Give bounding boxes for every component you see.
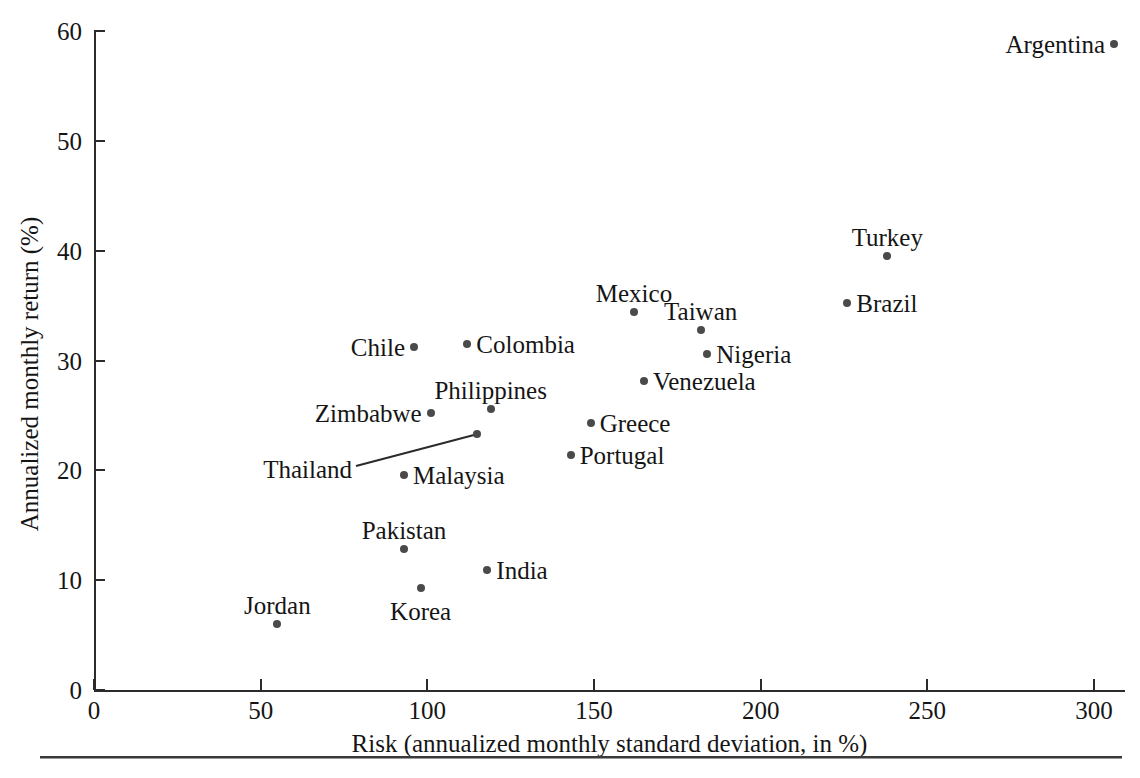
chart-figure: 0102030405060 050100150200250300 Argenti… [0, 0, 1140, 778]
y-tick-label-60: 60 [57, 19, 82, 44]
point-label-brazil: Brazil [856, 291, 917, 316]
thailand-leader-line [0, 0, 1140, 778]
x-tick-label-300: 300 [1075, 698, 1113, 723]
data-point-india[interactable] [483, 566, 491, 574]
scatter-plot-area: 0102030405060 050100150200250300 Argenti… [0, 0, 1140, 778]
data-point-pakistan[interactable] [400, 545, 408, 553]
data-point-mexico[interactable] [630, 308, 638, 316]
point-label-pakistan: Pakistan [362, 518, 447, 543]
x-axis-line [94, 690, 1125, 692]
point-label-jordan: Jordan [244, 593, 311, 618]
data-point-argentina[interactable] [1110, 40, 1118, 48]
point-label-portugal: Portugal [580, 442, 665, 467]
x-tick-label-0: 0 [88, 698, 101, 723]
point-label-argentina: Argentina [1005, 32, 1105, 57]
data-point-venezuela[interactable] [640, 377, 648, 385]
data-point-colombia[interactable] [463, 340, 471, 348]
footer-divider [40, 756, 1122, 759]
point-label-nigeria: Nigeria [716, 341, 791, 366]
x-tick-label-150: 150 [575, 698, 613, 723]
data-point-jordan[interactable] [273, 620, 281, 628]
x-tick-200 [760, 679, 762, 690]
y-tick-label-50: 50 [57, 128, 82, 153]
data-point-greece[interactable] [587, 419, 595, 427]
point-label-greece: Greece [600, 411, 671, 436]
data-point-taiwan[interactable] [697, 326, 705, 334]
data-point-nigeria[interactable] [703, 350, 711, 358]
y-tick-0 [94, 689, 105, 691]
x-tick-label-200: 200 [742, 698, 780, 723]
data-point-turkey[interactable] [883, 252, 891, 260]
y-tick-label-0: 0 [70, 678, 83, 703]
point-label-philippines: Philippines [434, 378, 547, 403]
point-label-colombia: Colombia [476, 332, 575, 357]
y-tick-10 [94, 579, 105, 581]
data-point-malaysia[interactable] [400, 471, 408, 479]
x-tick-100 [426, 679, 428, 690]
point-label-thailand: Thailand [263, 457, 352, 482]
point-label-malaysia: Malaysia [413, 462, 505, 487]
x-tick-0 [93, 679, 95, 690]
x-tick-label-100: 100 [409, 698, 447, 723]
data-point-brazil[interactable] [843, 299, 851, 307]
y-tick-60 [94, 30, 105, 32]
data-point-korea[interactable] [417, 584, 425, 592]
data-point-thailand[interactable] [473, 430, 481, 438]
x-axis-title: Risk (annualized monthly standard deviat… [94, 730, 1125, 758]
point-label-india: India [496, 558, 547, 583]
data-point-philippines[interactable] [487, 405, 495, 413]
x-tick-label-50: 50 [248, 698, 273, 723]
data-point-portugal[interactable] [567, 451, 575, 459]
x-tick-label-250: 250 [909, 698, 947, 723]
y-tick-label-40: 40 [57, 238, 82, 263]
point-label-chile: Chile [351, 335, 405, 360]
y-tick-label-20: 20 [57, 458, 82, 483]
point-label-turkey: Turkey [852, 225, 923, 250]
data-point-zimbabwe[interactable] [427, 409, 435, 417]
y-tick-label-30: 30 [57, 348, 82, 373]
x-tick-300 [1093, 679, 1095, 690]
y-tick-label-10: 10 [57, 568, 82, 593]
y-axis-title: Annualized monthly return (%) [16, 64, 44, 684]
data-point-chile[interactable] [410, 343, 418, 351]
x-tick-250 [926, 679, 928, 690]
x-tick-150 [593, 679, 595, 690]
y-tick-20 [94, 469, 105, 471]
x-tick-50 [260, 679, 262, 690]
point-label-mexico: Mexico [596, 281, 672, 306]
point-label-venezuela: Venezuela [653, 369, 756, 394]
y-tick-50 [94, 140, 105, 142]
point-label-zimbabwe: Zimbabwe [315, 401, 422, 426]
point-label-taiwan: Taiwan [664, 299, 737, 324]
y-tick-40 [94, 250, 105, 252]
point-label-korea: Korea [390, 599, 451, 624]
y-tick-30 [94, 360, 105, 362]
